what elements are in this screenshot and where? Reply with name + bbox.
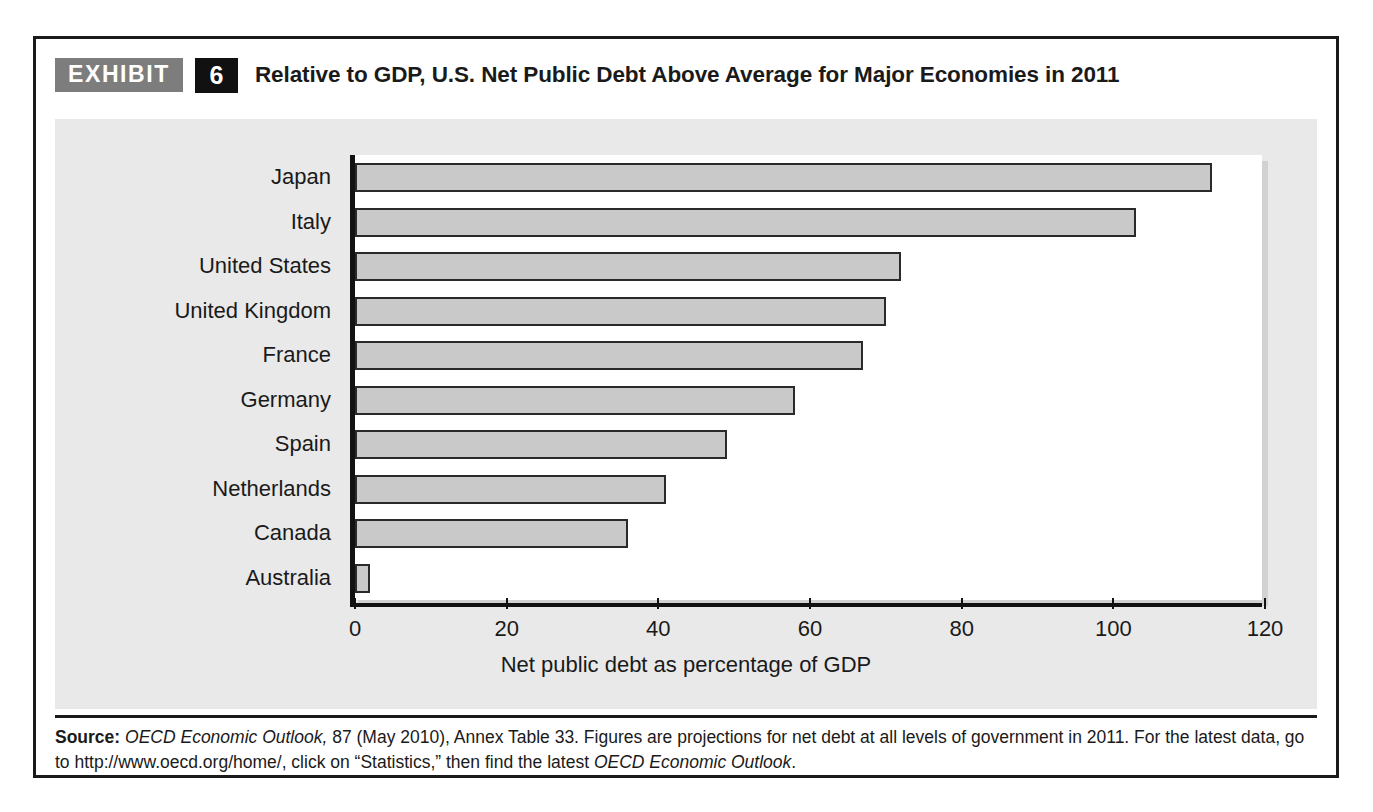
x-axis-tick-label: 20 [494,616,518,642]
bar-row [355,155,1265,200]
source-divider [55,715,1317,718]
chart-panel: JapanItalyUnited StatesUnited KingdomFra… [55,119,1317,709]
x-axis-tick-label: 100 [1095,616,1132,642]
x-axis-title: Net public debt as percentage of GDP [55,652,1317,678]
bar-row [355,333,1265,378]
bar [355,163,1212,192]
x-axis-tick-label: 0 [349,616,361,642]
source-publication-1: OECD Economic Outlook, [125,727,327,747]
bar [355,297,886,326]
bar [355,519,628,548]
exhibit-header: EXHIBIT 6 Relative to GDP, U.S. Net Publ… [36,39,1336,111]
y-axis-category-labels: JapanItalyUnited StatesUnited KingdomFra… [55,155,340,600]
bar-row [355,378,1265,423]
bar [355,208,1136,237]
y-axis-tick-label: Canada [55,511,340,556]
y-axis-line [350,155,355,606]
bar [355,252,901,281]
x-axis-tick-label: 40 [646,616,670,642]
exhibit-frame: EXHIBIT 6 Relative to GDP, U.S. Net Publ… [33,36,1339,778]
bars-layer [355,155,1265,600]
exhibit-number-badge: 6 [195,58,238,93]
x-axis-tick-label: 60 [798,616,822,642]
y-axis-tick-label: United Kingdom [55,289,340,334]
bar-row [355,511,1265,556]
bar-row [355,289,1265,334]
bar [355,386,795,415]
x-axis-tick-mark [809,598,811,609]
x-axis-tick-mark [354,598,356,609]
x-axis-tick-label: 80 [949,616,973,642]
x-axis-tick-mark [506,598,508,609]
bar-row [355,422,1265,467]
exhibit-title: Relative to GDP, U.S. Net Public Debt Ab… [255,62,1119,88]
y-axis-tick-label: France [55,333,340,378]
bar-row [355,467,1265,512]
source-text-2: . [791,752,796,772]
bar [355,564,370,593]
x-axis-tick-mark [961,598,963,609]
y-axis-tick-label: United States [55,244,340,289]
x-axis-tick-mark [1112,598,1114,609]
y-axis-tick-label: Italy [55,200,340,245]
bar-row [355,244,1265,289]
bar [355,341,863,370]
y-axis-tick-label: Japan [55,155,340,200]
x-axis-ticks: 020406080100120 [355,607,1265,647]
y-axis-tick-label: Australia [55,556,340,601]
y-axis-tick-label: Netherlands [55,467,340,512]
x-axis-tick-mark [657,598,659,609]
exhibit-tag-label: EXHIBIT [55,58,183,92]
source-publication-2: OECD Economic Outlook [594,752,791,772]
x-axis-tick-mark [1264,598,1266,609]
bar [355,475,666,504]
y-axis-tick-label: Spain [55,422,340,467]
y-axis-tick-label: Germany [55,378,340,423]
x-axis-tick-label: 120 [1247,616,1284,642]
bar [355,430,727,459]
bar-row [355,200,1265,245]
source-label: Source: [55,727,120,747]
source-note: Source: OECD Economic Outlook, 87 (May 2… [55,725,1317,776]
bar-row [355,556,1265,601]
